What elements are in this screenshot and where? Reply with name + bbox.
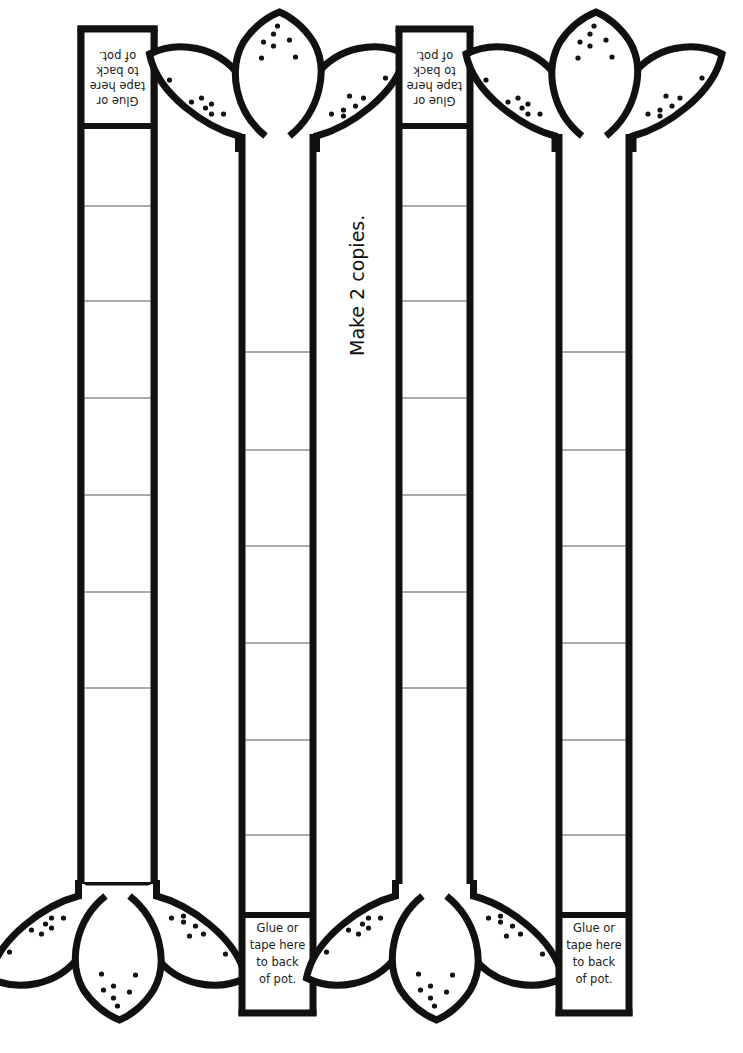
tab-text-line: Glue or	[413, 94, 455, 108]
tab-text-line: of pot.	[575, 972, 612, 986]
tab-text-line: tape here	[407, 79, 463, 93]
tab-text-line: of pot.	[99, 49, 136, 63]
tab-text-line: tape here	[566, 938, 622, 952]
tab-text-line: tape here	[250, 938, 306, 952]
tab-text-line: of pot.	[416, 49, 453, 63]
tab-text-line: to back	[96, 64, 139, 78]
instruction-text: Make 2 copies.	[346, 215, 368, 356]
tab-text-line: to back	[256, 955, 299, 969]
flower-icon	[466, 12, 722, 152]
flower-icon	[150, 12, 406, 152]
tab-text-line: tape here	[90, 79, 146, 93]
tab-text-line: of pot.	[259, 972, 296, 986]
strip-4: Glue or tape here to back of pot.	[466, 12, 722, 1016]
strip-3: Glue or tape here to back of pot.	[307, 29, 563, 1020]
flower-icon	[307, 880, 563, 1020]
tab-text-line: Glue or	[573, 921, 615, 935]
worksheet: Glue or tape here to back of pot. Glue o…	[0, 0, 743, 1053]
tab-text-line: to back	[573, 955, 616, 969]
tab-text-line: to back	[413, 64, 456, 78]
strip-1: Glue or tape here to back of pot.	[0, 29, 246, 1020]
flower-icon	[0, 880, 246, 1020]
strip-2: Glue or tape here to back of pot.	[150, 12, 406, 1016]
tab-text-line: Glue or	[257, 921, 299, 935]
tab-text-line: Glue or	[96, 94, 138, 108]
